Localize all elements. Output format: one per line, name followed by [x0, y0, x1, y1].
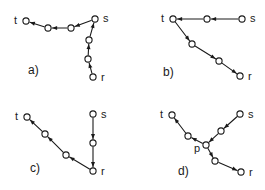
node-a-terminal-r: [90, 74, 96, 80]
node-b-intermediate-1: [189, 41, 195, 47]
node-d-intermediate-0: [218, 128, 224, 134]
node-d-terminal-t: [169, 112, 175, 118]
node-b-intermediate-0: [204, 16, 210, 22]
label-b-terminal-r: r: [248, 70, 252, 82]
node-d-terminal-s: [237, 111, 243, 117]
panel-label-a: a): [28, 63, 39, 77]
panel-d: tsrpd): [160, 108, 254, 178]
arrowhead-a-5: [91, 23, 95, 28]
node-a-intermediate-1: [68, 25, 74, 31]
panel-label-b: b): [163, 65, 174, 79]
arrowhead-a-0: [75, 23, 80, 27]
arrowhead-b-4: [231, 69, 236, 74]
node-a-terminal-s: [92, 16, 98, 22]
arrowhead-b-1: [177, 17, 182, 21]
arrowhead-c-0: [91, 134, 95, 139]
panel-label-d: d): [178, 164, 189, 178]
arrowhead-c-2: [70, 157, 75, 161]
node-a-terminal-t: [23, 18, 29, 24]
label-c-terminal-r: r: [101, 165, 105, 177]
node-c-terminal-t: [24, 114, 30, 120]
panel-label-c: c): [30, 161, 40, 175]
node-a-intermediate-2: [86, 37, 92, 43]
arrowhead-d-5: [232, 167, 237, 171]
diagram-canvas: tsra)tsrb)tsrc)tsrpd): [0, 0, 265, 190]
label-b-terminal-s: s: [250, 12, 256, 24]
label-d-terminal-r: r: [249, 166, 253, 178]
label-a-terminal-t: t: [14, 14, 17, 26]
label-d-junction-p: p: [194, 142, 200, 154]
panel-b: tsrb): [161, 12, 256, 82]
node-c-terminal-s: [90, 111, 96, 117]
label-c-terminal-s: s: [101, 108, 107, 120]
label-b-terminal-t: t: [161, 12, 164, 24]
node-b-intermediate-2: [216, 58, 222, 64]
arrowhead-b-0: [211, 17, 216, 21]
node-d-intermediate-2: [212, 158, 218, 164]
node-a-intermediate-3: [85, 56, 91, 62]
figure-diagram-panels: tsra)tsrb)tsrc)tsrpd): [0, 0, 265, 190]
node-b-terminal-r: [237, 73, 243, 79]
node-d-terminal-r: [238, 169, 244, 175]
label-a-terminal-r: r: [101, 71, 105, 83]
node-b-terminal-t: [170, 16, 176, 22]
node-d-junction-p: [203, 142, 209, 148]
label-d-terminal-s: s: [248, 108, 254, 120]
node-c-intermediate-2: [42, 131, 48, 137]
node-c-terminal-r: [90, 168, 96, 174]
panel-c: tsrc): [15, 108, 107, 177]
arrowhead-d-4: [209, 152, 213, 157]
arrowhead-c-1: [91, 162, 95, 167]
node-d-intermediate-1: [185, 133, 191, 139]
node-a-intermediate-0: [45, 25, 51, 31]
label-c-terminal-t: t: [15, 110, 18, 122]
arrowhead-a-2: [30, 22, 35, 26]
node-c-intermediate-1: [63, 152, 69, 158]
arrowhead-a-3: [89, 63, 93, 68]
node-c-intermediate-0: [90, 140, 96, 146]
arrowhead-a-1: [52, 26, 57, 30]
arrowhead-a-4: [87, 44, 91, 49]
label-a-terminal-s: s: [103, 12, 109, 24]
label-d-terminal-t: t: [160, 108, 163, 120]
arrowhead-b-3: [210, 54, 215, 58]
node-b-terminal-s: [239, 16, 245, 22]
panel-a: tsra): [14, 12, 109, 83]
